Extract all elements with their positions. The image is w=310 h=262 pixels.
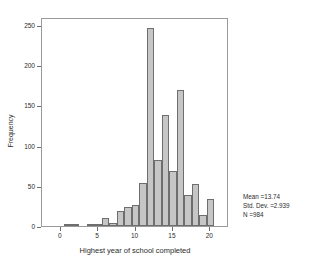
histogram-bar xyxy=(132,205,139,226)
y-axis-title: Frequency xyxy=(7,114,14,147)
plot-area xyxy=(41,18,228,227)
x-tick-mark xyxy=(60,227,61,231)
histogram-bar xyxy=(147,28,154,226)
stats-mean: Mean =13.74 xyxy=(243,193,290,202)
y-tick-label: 250 xyxy=(24,23,35,30)
histogram-bar xyxy=(199,215,206,226)
x-axis-title: Highest year of school completed xyxy=(80,246,191,255)
histogram-bar xyxy=(192,184,199,226)
x-tick-mark xyxy=(209,227,210,231)
x-tick-label: 15 xyxy=(168,233,175,240)
histogram-bar xyxy=(87,224,94,226)
histogram-bar xyxy=(64,224,71,226)
stats-n: N =984 xyxy=(243,211,290,220)
histogram-screenshot: Frequency 050100150200250 Highest year o… xyxy=(0,0,310,262)
histogram-bar xyxy=(184,195,191,226)
histogram-bar xyxy=(72,224,79,226)
y-tick-label: 150 xyxy=(24,103,35,110)
x-tick-mark xyxy=(97,227,98,231)
histogram-bar xyxy=(109,223,116,226)
x-axis: Highest year of school completed 0510152… xyxy=(0,227,310,262)
x-tick-mark xyxy=(172,227,173,231)
bars-layer xyxy=(42,19,227,226)
histogram-bar xyxy=(139,183,146,226)
x-tick-label: 10 xyxy=(131,233,138,240)
histogram-bar xyxy=(207,199,214,226)
y-axis: Frequency 050100150200250 xyxy=(0,0,41,262)
histogram-bar xyxy=(117,211,124,226)
histogram-bar xyxy=(169,171,176,226)
x-tick-label: 5 xyxy=(95,233,99,240)
y-tick-label: 50 xyxy=(28,184,35,191)
stats-annotation: Mean =13.74 Std. Dev. =2.939 N =984 xyxy=(243,193,290,220)
x-tick-label: 20 xyxy=(206,233,213,240)
y-tick-label: 100 xyxy=(24,143,35,150)
histogram-bar xyxy=(94,224,101,226)
y-tick-label: 200 xyxy=(24,63,35,70)
histogram-bar xyxy=(177,90,184,226)
histogram-bar xyxy=(124,207,131,226)
histogram-bar xyxy=(102,218,109,226)
histogram-bar xyxy=(162,115,169,226)
x-tick-label: 0 xyxy=(58,233,62,240)
x-tick-mark xyxy=(135,227,136,231)
histogram-bar xyxy=(154,160,161,226)
stats-std-dev: Std. Dev. =2.939 xyxy=(243,202,290,211)
